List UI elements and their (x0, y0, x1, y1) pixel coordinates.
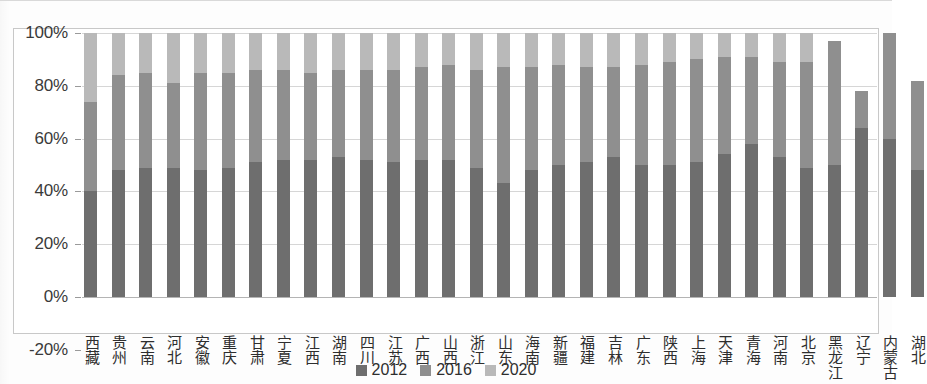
bar-column[interactable] (497, 33, 510, 297)
bar-column[interactable] (167, 33, 180, 297)
bar-segment-2020 (745, 33, 758, 57)
x-axis-label: 河北 (166, 335, 181, 365)
bar-column[interactable] (883, 33, 896, 297)
bar-column[interactable] (855, 33, 868, 297)
bar-column[interactable] (442, 33, 455, 297)
x-axis-label: 天津 (717, 335, 732, 365)
x-axis-label: 吉林 (606, 335, 621, 365)
bar-segment-2016 (497, 67, 510, 183)
bar-column[interactable] (470, 33, 483, 297)
bar-segment-2016 (773, 62, 786, 157)
bar-column[interactable] (635, 33, 648, 297)
legend-swatch-2012 (356, 365, 367, 376)
bar-column[interactable] (304, 33, 317, 297)
plot-area: 100%80%60%40%20%0%-20%西藏贵州云南河北安徽重庆甘肃宁夏江西… (82, 33, 877, 297)
bar-segment-2016 (277, 70, 290, 160)
bar-segment-2012 (525, 170, 538, 297)
bar-segment-2016 (552, 65, 565, 165)
bar-segment-2016 (112, 75, 125, 170)
x-axis-label: 福建 (579, 335, 594, 365)
bar-segment-2012 (883, 139, 896, 297)
bar-column[interactable] (800, 33, 813, 297)
bar-column[interactable] (194, 33, 207, 297)
x-axis-label: 湖北 (910, 335, 925, 365)
bar-column[interactable] (911, 33, 924, 297)
bar-segment-2020 (607, 33, 620, 67)
bar-segment-2016 (828, 41, 841, 165)
bar-column[interactable] (690, 33, 703, 297)
bar-segment-2020 (84, 33, 97, 102)
bar-column[interactable] (607, 33, 620, 297)
bar-segment-2016 (883, 33, 896, 139)
x-axis-label: 贵州 (111, 335, 126, 365)
bar-segment-2012 (442, 160, 455, 297)
legend-label-2020: 2020 (501, 362, 537, 378)
axis-line-zero (82, 297, 877, 298)
x-axis-label: 安徽 (193, 335, 208, 365)
bar-segment-2012 (332, 157, 345, 297)
bar-segment-2012 (470, 168, 483, 297)
y-tick-mark-80 (75, 86, 81, 87)
bar-segment-2020 (497, 33, 510, 67)
y-tick-mark-60 (75, 139, 81, 140)
bar-column[interactable] (84, 33, 97, 297)
bar-column[interactable] (773, 33, 786, 297)
bar-column[interactable] (112, 33, 125, 297)
bar-column[interactable] (552, 33, 565, 297)
bar-column[interactable] (415, 33, 428, 297)
y-axis-label-40: 40% (2, 182, 68, 199)
bar-column[interactable] (139, 33, 152, 297)
bar-segment-2020 (663, 33, 676, 62)
bar-segment-2016 (800, 62, 813, 168)
y-axis-label-0: 0% (2, 288, 68, 305)
bar-column[interactable] (332, 33, 345, 297)
y-tick-mark-100 (75, 33, 81, 34)
bar-segment-2016 (525, 67, 538, 170)
bar-segment-2020 (442, 33, 455, 65)
bar-segment-2012 (663, 165, 676, 297)
x-axis-label: 广西 (414, 335, 429, 365)
bar-segment-2016 (360, 70, 373, 160)
x-axis-label: 广东 (634, 335, 649, 365)
bar-segment-2020 (690, 33, 703, 59)
bar-column[interactable] (745, 33, 758, 297)
bar-column[interactable] (580, 33, 593, 297)
bar-segment-2016 (470, 70, 483, 168)
x-axis-label: 陕西 (662, 335, 677, 365)
x-axis-label: 重庆 (221, 335, 236, 365)
bar-segment-2016 (415, 67, 428, 159)
bar-column[interactable] (525, 33, 538, 297)
bar-column[interactable] (663, 33, 676, 297)
bar-segment-2016 (745, 57, 758, 144)
bar-column[interactable] (387, 33, 400, 297)
bar-segment-2016 (387, 70, 400, 162)
bar-segment-2020 (552, 33, 565, 65)
bar-segment-2012 (497, 183, 510, 297)
bar-segment-2020 (635, 33, 648, 65)
bar-segment-2020 (332, 33, 345, 70)
bar-segment-2012 (387, 162, 400, 297)
bar-column[interactable] (249, 33, 262, 297)
y-axis-label-20: 20% (2, 235, 68, 252)
bar-column[interactable] (828, 33, 841, 297)
bar-segment-2016 (690, 59, 703, 162)
bar-column[interactable] (360, 33, 373, 297)
bar-segment-2012 (855, 128, 868, 297)
bar-segment-2020 (194, 33, 207, 73)
x-axis-label: 湖南 (331, 335, 346, 365)
bar-segment-2020 (360, 33, 373, 70)
bar-column[interactable] (718, 33, 731, 297)
chart-legend: 2012 2016 2020 (0, 362, 892, 378)
y-axis-label-80: 80% (2, 77, 68, 94)
y-tick-mark-40 (75, 191, 81, 192)
bar-segment-2012 (580, 162, 593, 297)
bar-segment-2016 (580, 67, 593, 162)
bar-segment-2020 (415, 33, 428, 67)
bar-segment-2012 (194, 170, 207, 297)
legend-label-2012: 2012 (372, 362, 408, 378)
bar-segment-2016 (607, 67, 620, 157)
bar-column[interactable] (222, 33, 235, 297)
bar-column[interactable] (277, 33, 290, 297)
bar-segment-2016 (663, 62, 676, 165)
bar-segment-2020 (249, 33, 262, 70)
